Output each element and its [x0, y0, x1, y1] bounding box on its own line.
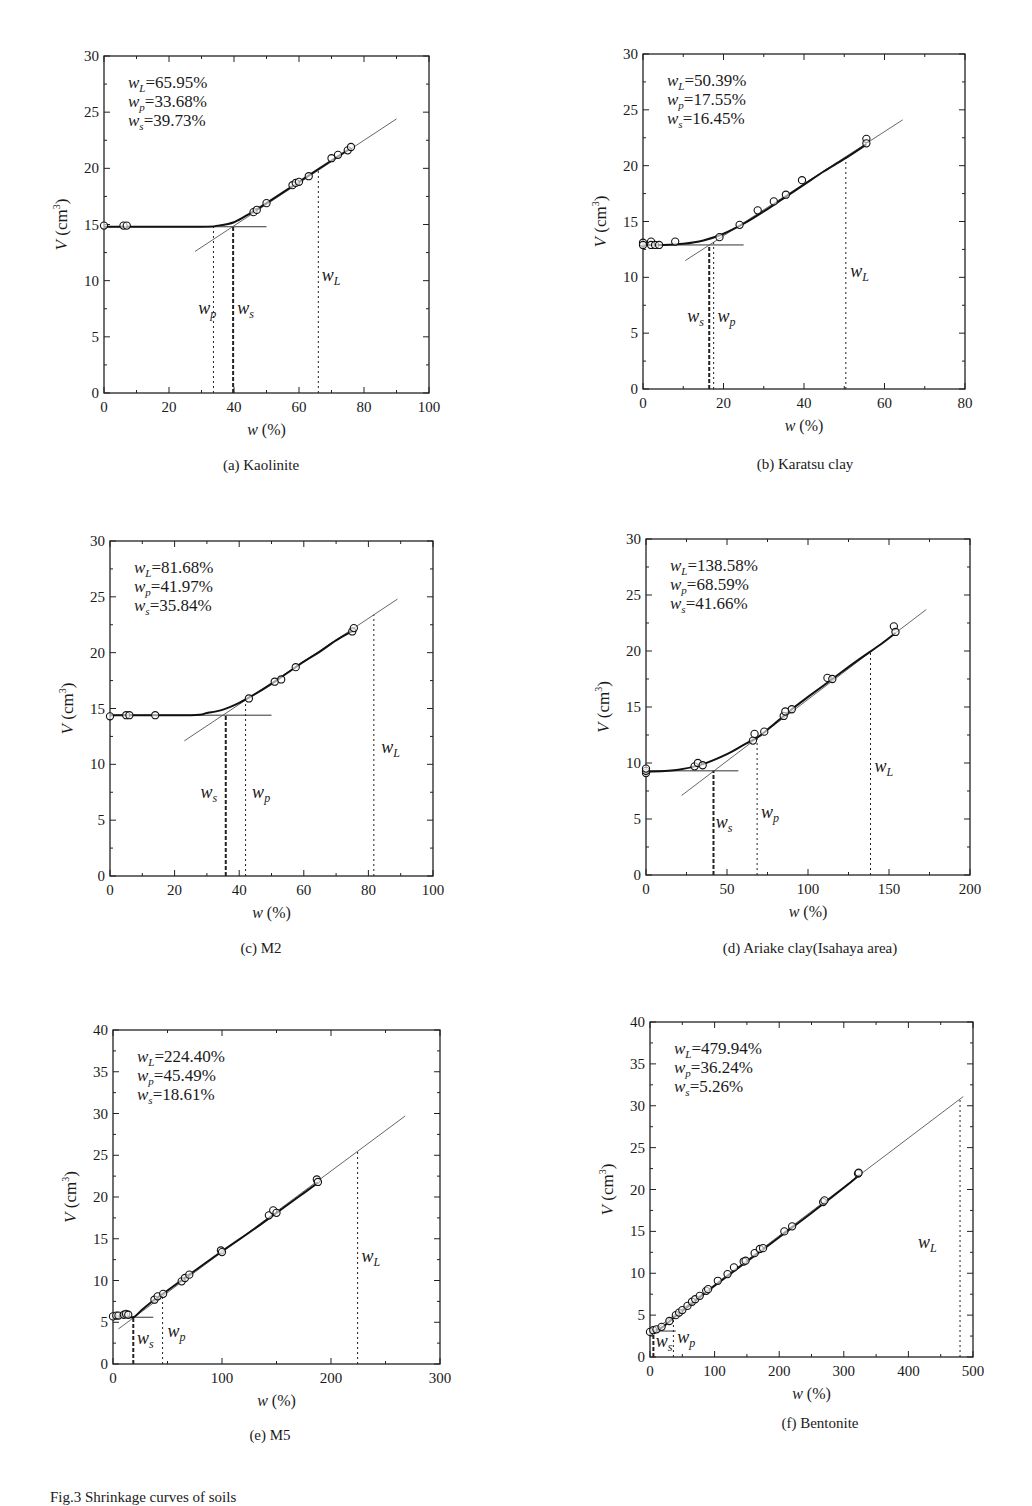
data-point	[666, 1317, 673, 1324]
y-axis-label: V (cm3)	[597, 1164, 617, 1216]
y-tick-label: 20	[630, 1182, 645, 1198]
y-tick-label: 5	[638, 1307, 646, 1323]
chart-f-plot: 01002003004005000510152025303540w (%)V (…	[0, 0, 1032, 1470]
y-tick-label: 40	[630, 1014, 645, 1030]
y-tick-label: 30	[630, 1098, 645, 1114]
y-tick-label: 10	[630, 1265, 645, 1281]
x-tick-label: 100	[703, 1363, 726, 1379]
data-point	[821, 1197, 828, 1204]
x-tick-label: 0	[646, 1363, 654, 1379]
data-point	[789, 1223, 796, 1230]
x-tick-label: 400	[897, 1363, 920, 1379]
y-tick-label: 25	[630, 1140, 645, 1156]
data-point	[730, 1264, 737, 1271]
wp-marker-label: wp	[677, 1327, 695, 1350]
data-point	[759, 1245, 766, 1252]
data-point	[658, 1323, 665, 1330]
ws-marker-label: ws	[656, 1331, 673, 1354]
annotation-wp: wp=36.24%	[674, 1058, 753, 1079]
annotation-ws: ws=5.26%	[674, 1077, 743, 1098]
chart-panel-f: 01002003004005000510152025303540w (%)V (…	[0, 0, 1032, 1470]
x-tick-label: 300	[833, 1363, 856, 1379]
x-axis-label: w (%)	[792, 1385, 831, 1403]
data-point	[855, 1169, 862, 1176]
data-point	[696, 1292, 703, 1299]
data-point	[724, 1270, 731, 1277]
annotation-wL: wL=479.94%	[674, 1039, 762, 1060]
data-point	[781, 1228, 788, 1235]
wL-marker-label: wL	[918, 1232, 937, 1255]
data-point	[742, 1257, 749, 1264]
y-tick-label: 0	[638, 1349, 646, 1365]
data-point	[714, 1277, 721, 1284]
y-tick-label: 15	[630, 1223, 645, 1239]
y-tick-label: 35	[630, 1056, 645, 1072]
figure-caption: Fig.3 Shrinkage curves of soils	[50, 1489, 236, 1506]
x-tick-label: 200	[768, 1363, 791, 1379]
chart-f-caption: (f) Bentonite	[745, 1415, 895, 1432]
x-tick-label: 500	[962, 1363, 985, 1379]
data-point	[705, 1286, 712, 1293]
